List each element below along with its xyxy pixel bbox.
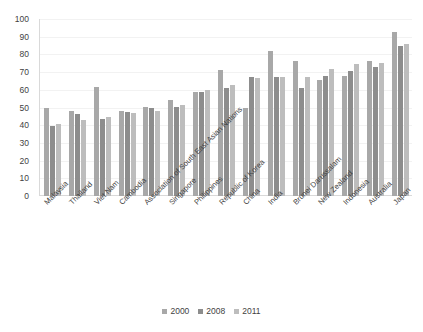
bar[interactable] bbox=[293, 61, 298, 196]
bar[interactable] bbox=[255, 78, 260, 196]
bar[interactable] bbox=[392, 32, 397, 196]
bar[interactable] bbox=[69, 111, 74, 196]
plot-area bbox=[39, 19, 412, 196]
bar[interactable] bbox=[268, 51, 273, 196]
bar[interactable] bbox=[373, 67, 378, 196]
bar[interactable] bbox=[174, 107, 179, 196]
bar-group bbox=[392, 19, 409, 196]
legend-item[interactable]: 2008 bbox=[198, 306, 225, 316]
bar-group bbox=[143, 19, 160, 196]
bar[interactable] bbox=[404, 44, 409, 196]
y-axis-tick-label: 20 bbox=[20, 156, 29, 165]
y-axis-tick-label: 100 bbox=[15, 15, 29, 24]
y-axis-tick-label: 70 bbox=[20, 68, 29, 77]
legend-swatch-icon bbox=[198, 309, 203, 314]
legend-swatch-icon bbox=[162, 309, 167, 314]
bar-chart: 0102030405060708090100 MalaysiaThailandV… bbox=[0, 0, 423, 332]
bar[interactable] bbox=[125, 112, 130, 196]
legend-swatch-icon bbox=[234, 309, 239, 314]
chart-legend: 200020082011 bbox=[0, 306, 423, 316]
bar[interactable] bbox=[354, 64, 359, 196]
bar-group bbox=[367, 19, 384, 196]
bar-group bbox=[268, 19, 285, 196]
bar[interactable] bbox=[230, 85, 235, 196]
bar-group bbox=[293, 19, 310, 196]
y-axis-tick-label: 40 bbox=[20, 121, 29, 130]
bars-layer bbox=[39, 19, 412, 196]
y-axis: 0102030405060708090100 bbox=[0, 0, 36, 332]
legend-item[interactable]: 2011 bbox=[234, 306, 260, 316]
legend-item[interactable]: 2000 bbox=[162, 306, 189, 316]
y-axis-tick-label: 80 bbox=[20, 50, 29, 59]
bar[interactable] bbox=[50, 126, 55, 196]
bar-group bbox=[94, 19, 111, 196]
y-axis-tick-label: 90 bbox=[20, 32, 29, 41]
y-axis-tick-label: 30 bbox=[20, 138, 29, 147]
bar[interactable] bbox=[398, 46, 403, 196]
bar-group bbox=[44, 19, 61, 196]
bar[interactable] bbox=[367, 61, 372, 196]
bar[interactable] bbox=[100, 119, 105, 196]
bar-group bbox=[342, 19, 359, 196]
bar[interactable] bbox=[329, 69, 334, 196]
bar[interactable] bbox=[379, 63, 384, 196]
bar-group bbox=[218, 19, 235, 196]
bar[interactable] bbox=[274, 77, 279, 196]
bar[interactable] bbox=[305, 77, 310, 196]
legend-label: 2011 bbox=[242, 306, 260, 316]
bar[interactable] bbox=[149, 108, 154, 196]
y-axis-tick-label: 10 bbox=[20, 174, 29, 183]
legend-label: 2000 bbox=[170, 306, 189, 316]
bar[interactable] bbox=[44, 108, 49, 196]
y-axis-tick-label: 60 bbox=[20, 85, 29, 94]
bar-group bbox=[193, 19, 210, 196]
bar-group bbox=[69, 19, 86, 196]
bar[interactable] bbox=[299, 88, 304, 196]
legend-label: 2008 bbox=[206, 306, 225, 316]
bar[interactable] bbox=[75, 114, 80, 196]
bar-group bbox=[119, 19, 136, 196]
bar[interactable] bbox=[94, 87, 99, 196]
y-axis-tick-label: 0 bbox=[24, 192, 29, 201]
y-axis-tick-label: 50 bbox=[20, 103, 29, 112]
bar[interactable] bbox=[280, 77, 285, 196]
